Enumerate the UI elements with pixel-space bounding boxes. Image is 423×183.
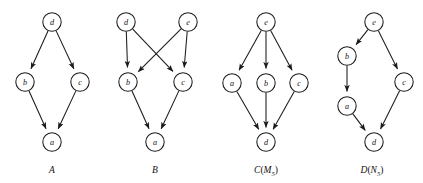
node-label-c-a: a: [230, 79, 234, 88]
node-label-c-e: e: [264, 18, 268, 27]
node-d-e: e: [365, 13, 383, 31]
edge-b-b-to-a: [132, 91, 149, 129]
panel-caption-b: B: [152, 165, 158, 175]
node-c-b: b: [257, 74, 275, 92]
node-a-a: a: [43, 133, 61, 151]
nodes-layer: dbcadebcaeabcdebcad: [16, 13, 413, 151]
node-label-b-c: c: [181, 78, 185, 87]
edge-c-e-to-c: [271, 31, 292, 71]
edge-d-e-to-b: [356, 30, 368, 45]
node-label-c-b: b: [264, 79, 268, 88]
node-d-d: d: [365, 133, 383, 151]
node-d-a: a: [338, 97, 356, 115]
captions-layer: ABC(M5)D(N5): [48, 165, 383, 177]
edge-b-c-to-a: [161, 91, 179, 129]
node-b-b: b: [119, 73, 137, 91]
node-c-e: e: [257, 13, 275, 31]
node-a-b: b: [16, 73, 34, 91]
node-label-d-a: a: [345, 102, 349, 111]
node-a-d: d: [43, 13, 61, 31]
node-label-a-a: a: [50, 138, 54, 147]
node-c-d: d: [257, 133, 275, 151]
edge-a-d-to-b: [31, 31, 48, 69]
node-label-a-c: c: [78, 78, 82, 87]
edge-a-c-to-a: [58, 91, 76, 129]
edge-a-b-to-a: [29, 91, 46, 129]
edge-d-e-to-c: [378, 31, 397, 69]
graph-canvas: dbcadebcaeabcdebcad ABC(M5)D(N5): [0, 0, 423, 183]
panel-caption-d: D(N5): [360, 165, 384, 177]
panel-caption-c: C(M5): [254, 165, 278, 177]
node-a-c: c: [71, 73, 89, 91]
node-label-d-b: b: [345, 52, 349, 61]
node-b-e: e: [179, 13, 197, 31]
edge-d-a-to-d: [353, 114, 365, 130]
node-b-d: d: [117, 13, 135, 31]
edge-a-d-to-c: [56, 31, 74, 69]
panel-caption-a: A: [48, 165, 55, 175]
node-label-b-e: e: [186, 18, 190, 27]
edge-c-c-to-d: [273, 92, 294, 130]
node-label-b-a: a: [153, 138, 157, 147]
edge-c-a-to-d: [237, 91, 259, 129]
node-d-c: c: [395, 73, 413, 91]
node-label-b-b: b: [126, 78, 130, 87]
edge-b-e-to-c: [184, 32, 187, 68]
node-b-c: c: [174, 73, 192, 91]
node-label-d-c: c: [402, 78, 406, 87]
edge-c-e-to-a: [239, 31, 261, 71]
edge-b-d-to-c: [133, 29, 173, 71]
dag-figure: dbcadebcaeabcdebcad ABC(M5)D(N5): [0, 0, 423, 183]
node-label-d-e: e: [372, 18, 376, 27]
node-c-a: a: [223, 74, 241, 92]
edge-d-c-to-d: [381, 91, 400, 129]
edge-b-e-to-b: [138, 29, 181, 72]
node-label-a-b: b: [23, 78, 27, 87]
node-b-a: a: [146, 133, 164, 151]
edge-b-d-to-b: [126, 32, 127, 68]
node-c-c: c: [290, 74, 308, 92]
node-d-b: b: [338, 47, 356, 65]
node-label-c-c: c: [297, 79, 301, 88]
